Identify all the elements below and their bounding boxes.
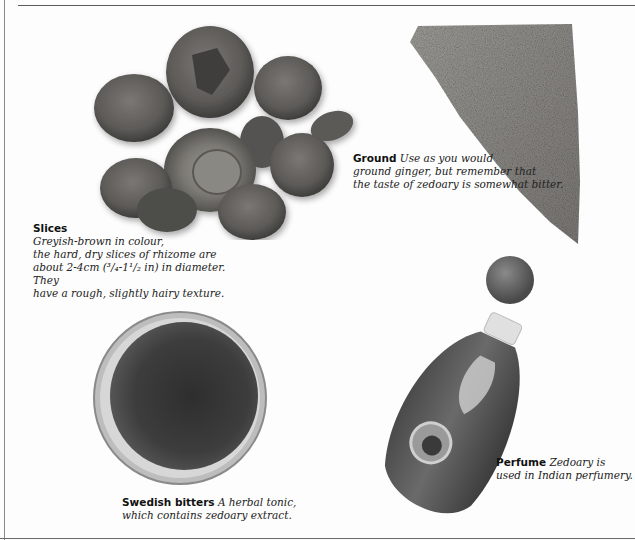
bottom-rule [0,538,635,539]
caption-line: Zedoary is [549,456,605,468]
caption-line: the hard, dry slices of rhizome are [33,248,253,261]
left-rule [4,0,5,540]
book-page: Slices Greyish-brown in colour, the hard… [0,0,635,540]
dried-rhizome-slices-image [92,0,367,240]
caption-swedish-bitters: Swedish bitters A herbal tonic, which co… [122,496,342,522]
caption-line: about 2-4cm (³/₄-1¹/₂ in) in diameter. T… [33,261,253,287]
caption-line: have a rough, slightly hairy texture. [33,287,253,300]
caption-slices: Slices Greyish-brown in colour, the hard… [33,222,253,300]
caption-title: Swedish bitters [122,496,215,508]
caption-perfume: Perfume Zedoary is used in Indian perfum… [496,456,635,482]
caption-line: Use as you would [400,152,493,164]
caption-line: which contains zedoary extract. [122,509,342,522]
caption-title: Slices [33,222,67,234]
caption-ground: Ground Use as you would ground ginger, b… [353,152,573,191]
caption-line: used in Indian perfumery. [496,469,635,482]
perfume-bottle-image [375,250,535,530]
ground-powder-image [400,22,585,250]
caption-title: Ground [353,152,396,164]
caption-title: Perfume [496,456,546,468]
caption-line: the taste of zedoary is somewhat bitter. [353,178,573,191]
caption-line: A herbal tonic, [218,496,296,508]
caption-line: Greyish-brown in colour, [33,235,253,248]
swedish-bitters-dish-image [90,308,270,488]
caption-line: ground ginger, but remember that [353,165,573,178]
